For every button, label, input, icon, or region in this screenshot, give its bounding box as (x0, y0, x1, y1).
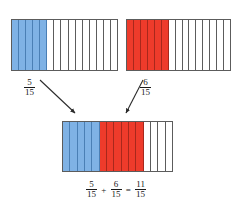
equation-addend-one: 5 15 (86, 180, 97, 199)
bar-cell (90, 20, 97, 70)
five-fifteenths-bar (11, 19, 118, 71)
bar-cell (158, 122, 165, 171)
plus-sign: + (99, 185, 108, 195)
fraction-five-fifteenths: 5 15 (24, 78, 35, 97)
bar-cell (19, 20, 26, 70)
bar-cell (162, 20, 169, 70)
bar-cell (166, 122, 172, 171)
bar-cell (114, 122, 121, 171)
bar-cell (129, 122, 136, 171)
bar-cell (12, 20, 19, 70)
bar-cell (141, 20, 148, 70)
fraction-numerator: 11 (135, 180, 146, 189)
bar-cell (151, 122, 158, 171)
bar-cell (69, 20, 76, 70)
bar-cell (136, 122, 143, 171)
fraction-numerator: 5 (86, 180, 97, 189)
bar-cell (189, 20, 196, 70)
bar-cell (83, 20, 90, 70)
bar-cell (148, 20, 155, 70)
eleven-fifteenths-bar (62, 121, 173, 172)
bar-cell (217, 20, 224, 70)
left-bar-fraction-label: 5 15 (24, 77, 35, 97)
fraction-six-fifteenths: 6 15 (140, 78, 151, 97)
fraction-denominator: 15 (111, 190, 122, 199)
bar-cell (26, 20, 33, 70)
bar-cell (76, 20, 83, 70)
bar-cell (33, 20, 40, 70)
bar-cell (169, 20, 176, 70)
right-bar-fraction-label: 6 15 (140, 77, 151, 97)
bar-cell (210, 20, 217, 70)
equals-sign: = (124, 185, 133, 195)
bar-cell (155, 20, 162, 70)
bar-cell (97, 20, 104, 70)
bar-cell (78, 122, 85, 171)
fraction-equation: 5 15 + 6 15 = 11 15 (0, 180, 232, 199)
fraction-numerator: 5 (24, 78, 35, 87)
bar-cell (196, 20, 203, 70)
arrow-from-left-bar (40, 80, 75, 113)
bar-cell (122, 122, 129, 171)
bar-cell (107, 122, 114, 171)
fraction-denominator: 15 (24, 88, 35, 97)
bar-cell (127, 20, 134, 70)
bar-cell (176, 20, 183, 70)
bar-cell (224, 20, 230, 70)
fraction-diagram: 5 15 6 15 (0, 0, 232, 209)
bar-cell (70, 122, 77, 171)
six-fifteenths-bar (126, 19, 231, 71)
bar-cell (203, 20, 210, 70)
bar-cell (85, 122, 92, 171)
bar-cell (63, 122, 70, 171)
equation-sum: 11 15 (135, 180, 146, 199)
fraction-numerator: 6 (140, 78, 151, 87)
bar-cell (111, 20, 117, 70)
fraction-numerator: 6 (111, 180, 122, 189)
bar-cell (47, 20, 54, 70)
fraction-denominator: 15 (135, 190, 146, 199)
bar-cell (61, 20, 68, 70)
fraction-denominator: 15 (86, 190, 97, 199)
bar-cell (92, 122, 99, 171)
fraction-denominator: 15 (140, 88, 151, 97)
bar-cell (54, 20, 61, 70)
bar-cell (40, 20, 47, 70)
equation-addend-two: 6 15 (111, 180, 122, 199)
bar-cell (144, 122, 151, 171)
bar-cell (100, 122, 107, 171)
bar-cell (134, 20, 141, 70)
bar-cell (183, 20, 190, 70)
bar-cell (104, 20, 111, 70)
